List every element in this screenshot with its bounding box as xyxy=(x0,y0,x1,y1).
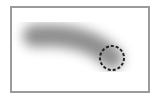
drawing-canvas[interactable] xyxy=(10,6,150,93)
canvas-drawing xyxy=(12,8,148,91)
